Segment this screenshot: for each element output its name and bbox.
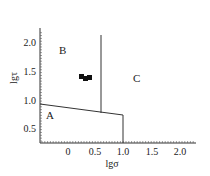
y-tick-label: 1.0	[24, 95, 37, 106]
x-axis-label: lgσ	[105, 158, 119, 169]
x-tick-label: 0	[66, 146, 71, 157]
y-tick-label: 1.5	[24, 66, 37, 77]
region-label-a: A	[46, 109, 54, 121]
x-tick-label: 1.0	[117, 146, 130, 157]
region-label-c: C	[133, 72, 140, 84]
region-label-b: B	[59, 44, 66, 56]
x-tick-label: 1.5	[146, 146, 159, 157]
data-point	[87, 75, 92, 80]
y-tick-label: 2.0	[24, 37, 37, 48]
y-axis-label: lgτ	[8, 72, 19, 84]
chart: 2.0 1.5 1.0 0.5 0 0.5 1.0 1.5 2.0 lgσ lg…	[0, 0, 210, 176]
x-tick-label: 2.0	[174, 146, 187, 157]
y-tick-label: 0.5	[24, 123, 37, 134]
x-tick-label: 0.5	[89, 146, 102, 157]
